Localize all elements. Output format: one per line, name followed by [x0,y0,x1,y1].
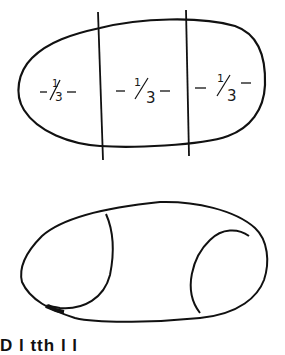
fraction-numerator: 1 [217,72,224,85]
divider-line-left [98,12,103,160]
section-label-middle: 1 3 [116,76,170,107]
inner-curve-right [191,230,249,313]
fraction-numerator: 1 [134,76,141,89]
inner-curve-left [48,214,113,308]
divider-line-right [186,10,189,156]
section-label-right: 1 3 [195,72,251,105]
section-label-left: 1 3 [40,78,76,104]
fraction-denominator: 3 [146,89,156,107]
fraction-denominator: 3 [55,90,63,104]
caption-text-clipped: D l tth l l [0,336,78,355]
bottom-oval [21,202,267,322]
fraction-numerator: 1 [52,78,58,89]
fraction-denominator: 3 [227,87,237,105]
